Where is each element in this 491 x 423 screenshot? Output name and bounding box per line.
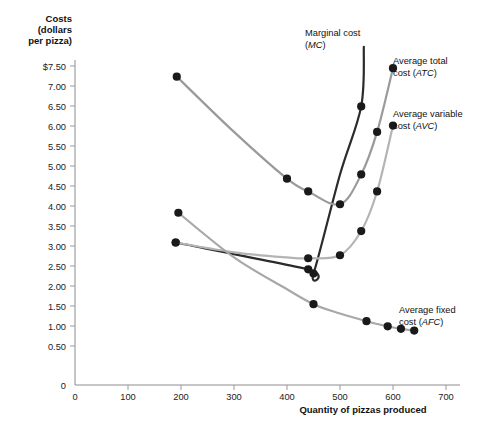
- x-tick-label-700: 700: [438, 392, 454, 402]
- y-axis-title-line2: (dollars: [38, 24, 72, 35]
- mc-label-line2: (MC): [305, 40, 326, 50]
- y-tick-label-5-50: 5.50: [48, 142, 66, 152]
- annotation-marginal-cost: Marginal cost (MC): [305, 28, 361, 50]
- data-point-avc: [373, 187, 381, 195]
- annotation-average-variable-cost: Average variable cost (AVC): [393, 109, 463, 131]
- x-tick-label-100: 100: [120, 392, 136, 402]
- data-point-afc: [309, 300, 317, 308]
- y-tick-label-3-00: 3.00: [48, 242, 66, 252]
- y-tick-label-6-50: 6.50: [48, 102, 66, 112]
- data-point-afc: [384, 322, 392, 330]
- x-tick-label-0: 0: [72, 392, 77, 402]
- y-tick-label-4-00: 4.00: [48, 202, 66, 212]
- curve-atc: [177, 68, 393, 205]
- series-layer: [172, 47, 419, 335]
- data-point-atc: [373, 128, 381, 136]
- annotation-average-total-cost: Average total cost (ATC): [393, 56, 448, 78]
- y-tick-label-7-00: 7.00: [48, 82, 66, 92]
- x-tick-label-600: 600: [385, 392, 401, 402]
- y-tick-label-2-00: 2.00: [48, 282, 66, 292]
- data-point-mc: [309, 269, 317, 277]
- data-point-afc: [410, 326, 418, 334]
- y-tick-label-0: 0: [61, 381, 66, 391]
- annotation-average-fixed-cost: Average fixed cost (AFC): [399, 305, 456, 327]
- x-axis-title: Quantity of pizzas produced: [299, 404, 426, 415]
- data-point-avc: [172, 238, 180, 246]
- y-axis-ticks: $7.50 7.00 6.50 6.00 5.50 5.00 4.50 4.00…: [43, 62, 75, 392]
- series-avc: [172, 121, 398, 262]
- x-tick-label-500: 500: [332, 392, 348, 402]
- y-tick-label-0-50: 0.50: [48, 342, 66, 352]
- chart-svg: Costs (dollars per pizza) $7.50 7.00 6.5…: [0, 0, 491, 423]
- x-axis-ticks: 100 200 300 400 500 600 700 0: [72, 385, 453, 402]
- afc-label-line1: Average fixed: [399, 305, 456, 315]
- y-tick-label-1-50: 1.50: [48, 302, 66, 312]
- cost-curves-chart: Costs (dollars per pizza) $7.50 7.00 6.5…: [0, 0, 491, 423]
- data-point-avc: [304, 254, 312, 262]
- y-tick-label-1-00: 1.00: [48, 322, 66, 332]
- data-point-afc: [174, 209, 182, 217]
- data-point-atc: [336, 200, 344, 208]
- data-point-atc: [304, 187, 312, 195]
- data-point-atc: [283, 175, 291, 183]
- y-tick-label-4-50: 4.50: [48, 182, 66, 192]
- y-tick-label-7-50: $7.50: [43, 62, 66, 72]
- curve-afc: [178, 213, 414, 331]
- x-tick-label-200: 200: [173, 392, 189, 402]
- data-point-avc: [336, 251, 344, 259]
- y-tick-label-5-00: 5.00: [48, 162, 66, 172]
- data-point-mc: [357, 102, 365, 110]
- afc-label-line2: cost (AFC): [399, 317, 443, 327]
- atc-label-line1: Average total: [393, 56, 448, 66]
- mc-label-line1: Marginal cost: [305, 28, 361, 38]
- avc-label-line2: cost (AVC): [393, 121, 437, 131]
- y-tick-label-3-50: 3.50: [48, 222, 66, 232]
- atc-label-line2: cost (ATC): [393, 68, 437, 78]
- data-point-atc: [357, 170, 365, 178]
- y-tick-label-2-50: 2.50: [48, 262, 66, 272]
- data-point-avc: [357, 227, 365, 235]
- data-point-afc: [362, 317, 370, 325]
- x-tick-label-300: 300: [226, 392, 242, 402]
- data-point-atc: [173, 73, 181, 81]
- avc-label-line1: Average variable: [393, 109, 463, 119]
- x-tick-label-400: 400: [279, 392, 295, 402]
- series-afc: [174, 209, 418, 335]
- y-tick-label-6-00: 6.00: [48, 122, 66, 132]
- y-axis-title-line1: Costs: [46, 13, 72, 24]
- y-axis-title-line3: per pizza): [28, 35, 72, 46]
